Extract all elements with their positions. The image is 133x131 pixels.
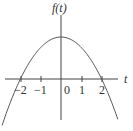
tick-label-0: 0 bbox=[64, 83, 70, 97]
parabola-curve bbox=[2, 37, 118, 125]
tick-label-neg1: −1 bbox=[34, 83, 47, 97]
y-axis-label: f(t) bbox=[52, 1, 67, 15]
tick-label-neg2: −2 bbox=[14, 83, 27, 97]
tick-label-1: 1 bbox=[79, 83, 85, 97]
x-axis-label: t bbox=[124, 72, 128, 86]
tick-label-2: 2 bbox=[99, 83, 105, 97]
chart: f(t) t −2 −1 0 1 2 bbox=[0, 0, 133, 131]
